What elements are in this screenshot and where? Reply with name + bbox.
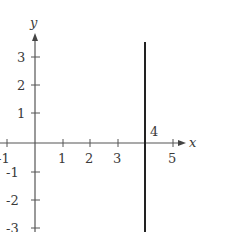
coordinate-plane: -1 1 2 3 4 5 3 2 1 -1 -2 -3 x y bbox=[0, 0, 239, 232]
y-tick-label: 3 bbox=[17, 50, 25, 65]
x-axis-arrow-icon bbox=[178, 140, 186, 146]
x-tick-label: 3 bbox=[113, 151, 121, 166]
y-axis-arrow-icon bbox=[32, 33, 38, 41]
x-tick-label: 5 bbox=[168, 151, 176, 166]
line-point-label: 4 bbox=[150, 124, 158, 139]
x-tick-label: 1 bbox=[58, 151, 66, 166]
y-tick-label: -2 bbox=[6, 193, 19, 208]
x-tick-label: 2 bbox=[85, 151, 93, 166]
x-axis-label: x bbox=[189, 135, 197, 150]
y-tick-label: -3 bbox=[6, 221, 19, 232]
y-axis-label: y bbox=[29, 15, 38, 30]
y-tick-label: -1 bbox=[6, 165, 19, 180]
y-tick-label: 2 bbox=[17, 78, 25, 93]
x-tick-label: -1 bbox=[0, 151, 10, 166]
y-tick-label: 1 bbox=[17, 106, 25, 121]
